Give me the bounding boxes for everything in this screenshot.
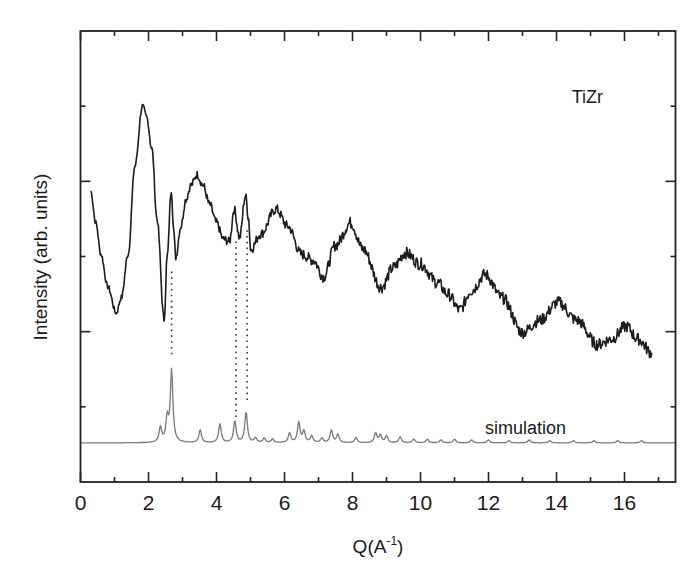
simulation-annotation: simulation xyxy=(485,418,566,438)
x-axis-title: Q(A-1) xyxy=(353,534,404,557)
x-tick-label: 12 xyxy=(477,491,500,514)
y-axis-title: Intensity (arb. units) xyxy=(30,174,51,341)
x-tick-label: 6 xyxy=(279,491,291,514)
plot-area xyxy=(81,105,675,443)
x-axis-title-superscript: -1 xyxy=(386,534,397,548)
x-tick-label: 14 xyxy=(545,491,569,514)
tizr-series-line xyxy=(91,105,652,358)
tizr-annotation: TiZr xyxy=(572,87,603,107)
x-axis-title-main: Q(A xyxy=(353,536,387,557)
peak-guide-lines xyxy=(172,230,247,418)
diffraction-chart: 0246810121416 TiZr simulation Q(A-1) Int… xyxy=(0,0,699,583)
x-tick-label: 4 xyxy=(211,491,223,514)
simulation-series-line xyxy=(81,368,675,443)
x-axis-title-close: ) xyxy=(397,536,403,557)
x-tick-label: 16 xyxy=(613,491,636,514)
x-tick-label: 8 xyxy=(347,491,359,514)
x-axis-tick-labels: 0246810121416 xyxy=(75,491,637,514)
x-tick-label: 10 xyxy=(409,491,432,514)
x-tick-label: 0 xyxy=(75,491,87,514)
x-tick-label: 2 xyxy=(143,491,155,514)
